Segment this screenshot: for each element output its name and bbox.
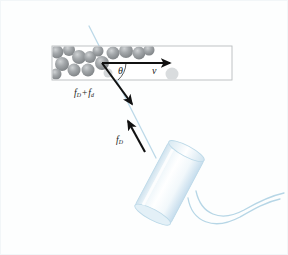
- velocity-label-text: v: [152, 65, 156, 76]
- doppler-ultrasound-figure: θ v fD+fd fD: [0, 0, 288, 255]
- f-d-sub: D: [119, 139, 123, 145]
- velocity-label: v: [152, 66, 156, 76]
- transmitted-frequency-vector: [128, 121, 145, 152]
- transducer-cable: [188, 191, 284, 224]
- doppler-angle-label: θ: [118, 66, 123, 76]
- figure-canvas: [0, 0, 288, 255]
- f-sum-sub-2: d: [91, 92, 94, 98]
- transmitted-frequency-label: fD: [116, 136, 123, 146]
- scattered-frequency-label: fD+fd: [74, 89, 94, 99]
